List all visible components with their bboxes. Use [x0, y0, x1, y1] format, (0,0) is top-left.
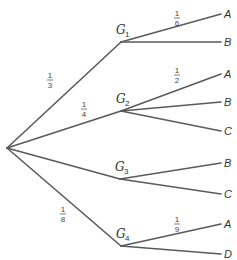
- node-subscript: 1: [125, 30, 130, 39]
- fraction-denominator: 8: [61, 215, 66, 224]
- fraction-numerator: 1: [48, 71, 53, 80]
- probability-g4-a: 19: [174, 215, 180, 234]
- edge-g2-a: [121, 74, 221, 111]
- leaf-label-b: B: [224, 96, 231, 108]
- probability-root-g4: 18: [60, 205, 66, 224]
- edge-g3-b: [120, 163, 221, 179]
- fraction-denominator: 3: [48, 81, 53, 90]
- probability-g2-a: 12: [174, 66, 180, 85]
- edge-g4-a: [121, 224, 221, 246]
- fraction-denominator: 6: [175, 19, 180, 28]
- probability-root-g2: 14: [81, 100, 87, 119]
- probability-root-g1: 13: [47, 71, 53, 90]
- fraction-numerator: 1: [175, 215, 180, 224]
- edge-root-g2: [7, 111, 121, 148]
- leaf-label-d: D: [224, 248, 232, 260]
- leaf-label-a: A: [223, 68, 231, 80]
- fraction-numerator: 1: [82, 100, 87, 109]
- leaf-label-b: B: [224, 36, 231, 48]
- edge-root-g4: [7, 148, 121, 246]
- edge-g3-c: [120, 179, 221, 194]
- leaf-label-b: B: [224, 157, 231, 169]
- node-subscript: 2: [125, 99, 130, 108]
- probability-g1-a: 16: [174, 9, 180, 28]
- fraction-numerator: 1: [175, 9, 180, 18]
- node-subscript: 4: [125, 234, 130, 243]
- fraction-numerator: 1: [175, 66, 180, 75]
- leaf-label-a: A: [223, 218, 231, 230]
- edge-g2-c: [121, 111, 221, 131]
- node-subscript: 3: [124, 167, 129, 176]
- edge-g2-b: [121, 102, 221, 111]
- leaf-label-c: C: [224, 125, 232, 137]
- leaf-label-c: C: [224, 188, 232, 200]
- edge-g1-a: [121, 14, 221, 42]
- leaf-label-a: A: [223, 8, 231, 20]
- fraction-numerator: 1: [61, 205, 66, 214]
- probability-tree: 13G1A16B14G2A12BCG3BC18G4A19D: [0, 0, 237, 260]
- fraction-denominator: 2: [175, 76, 180, 85]
- fraction-denominator: 9: [175, 225, 180, 234]
- edge-root-g1: [7, 42, 121, 148]
- edge-g4-d: [121, 246, 221, 254]
- fraction-denominator: 4: [82, 110, 87, 119]
